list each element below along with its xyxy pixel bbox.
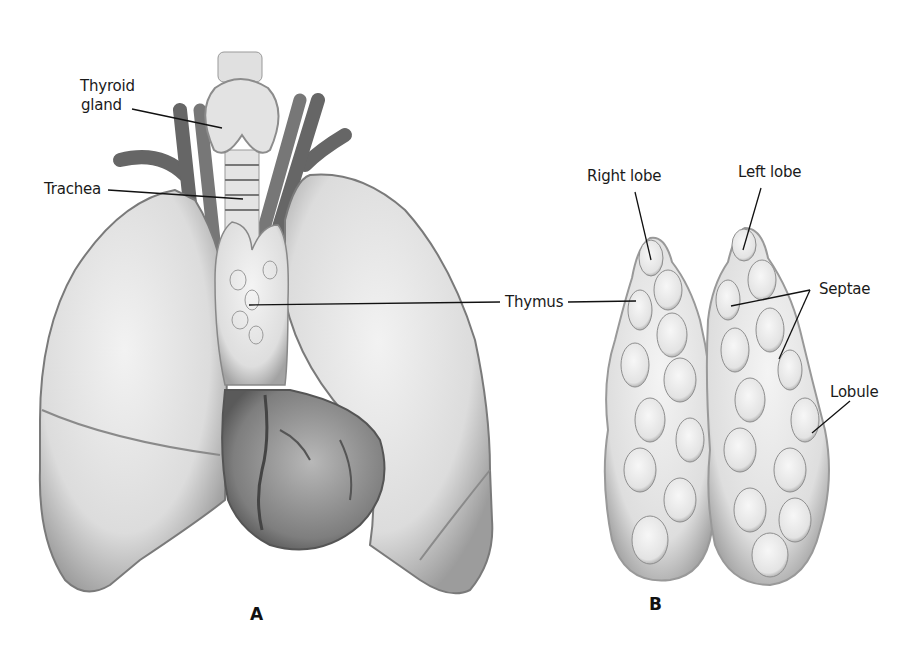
anatomy-figure: Thyroid gland Trachea Thymus A Right lob…: [0, 0, 919, 664]
panel-a-illustration: [40, 52, 500, 593]
label-septae: Septae: [819, 280, 870, 298]
label-left-lobe: Left lobe: [738, 163, 801, 181]
label-trachea: Trachea: [44, 180, 101, 198]
figure-illustration: [0, 0, 919, 664]
label-thyroid-line2: gland: [81, 96, 122, 114]
label-thyroid-line1: Thyroid: [80, 77, 135, 95]
label-lobule: Lobule: [830, 383, 879, 401]
thyroid-gland: [205, 79, 278, 153]
panel-letter-a: A: [250, 604, 263, 624]
lung-right: [40, 190, 228, 591]
thymus-in-chest: [215, 222, 288, 385]
label-right-lobe: Right lobe: [587, 167, 661, 185]
panel-letter-b: B: [649, 594, 662, 614]
panel-b-illustration: [568, 188, 850, 585]
label-thymus: Thymus: [505, 293, 563, 311]
